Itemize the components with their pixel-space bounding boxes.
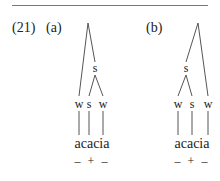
tree-b-stress-marks: – + –	[175, 155, 210, 167]
tree-a-s-right-branch	[95, 75, 103, 96]
tree-a-leaf-2: s	[87, 98, 92, 110]
tree-a-leaf-3: w	[99, 98, 108, 110]
tree-b-s-right-branch	[186, 75, 192, 96]
tree-a-s-left-branch	[89, 75, 95, 96]
tree-b-s-left-branch	[178, 75, 186, 96]
tree-b-root-left-branch	[186, 23, 198, 62]
tree-a-word: acacia	[75, 137, 110, 151]
tree-b-root-right-branch	[198, 23, 208, 96]
tree-b-leaf-1: w	[174, 98, 183, 110]
tree-b-leaf-2: s	[190, 98, 195, 110]
tree-a-root-right-branch	[88, 23, 95, 62]
tree-b-word: acacia	[175, 137, 210, 151]
tree-a-s-node: s	[93, 62, 98, 74]
tree-a-root-left-branch	[79, 23, 88, 96]
tree-a-stress-marks: – + –	[75, 155, 110, 167]
tree-a-leaf-1: w	[75, 98, 84, 110]
tree-b-leaf-3: w	[204, 98, 213, 110]
tree-b-s-node: s	[184, 62, 189, 74]
